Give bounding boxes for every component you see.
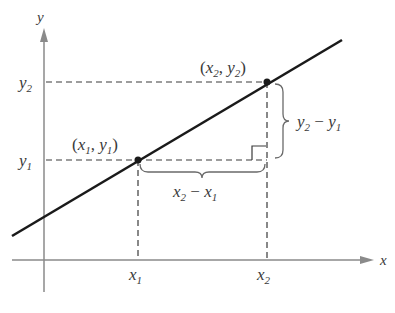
- run-label: x2 − x1: [172, 182, 217, 203]
- point-1: [135, 157, 142, 164]
- x-axis-arrow-icon: [360, 256, 374, 264]
- rise-brace: [275, 84, 289, 158]
- point-1-label: (x1, y1): [72, 135, 118, 156]
- run-brace: [140, 164, 265, 178]
- x-axis-label: x: [379, 252, 387, 268]
- x2-tick-label: x2: [256, 265, 271, 286]
- rise-label: y2 − y1: [295, 112, 341, 133]
- y-axis-label: y: [35, 9, 44, 25]
- slope-diagram: y x y2 y1 x1 x2 (x1, y1) (x2, y2) y2 − y…: [0, 0, 395, 313]
- right-angle-marker: [252, 146, 266, 160]
- point-2-label: (x2, y2): [200, 58, 246, 79]
- y-axis-arrow-icon: [40, 28, 48, 42]
- x1-tick-label: x1: [128, 265, 142, 286]
- point-2: [264, 79, 271, 86]
- y1-tick-label: y1: [17, 151, 32, 172]
- line: [12, 40, 342, 236]
- y2-tick-label: y2: [17, 73, 33, 94]
